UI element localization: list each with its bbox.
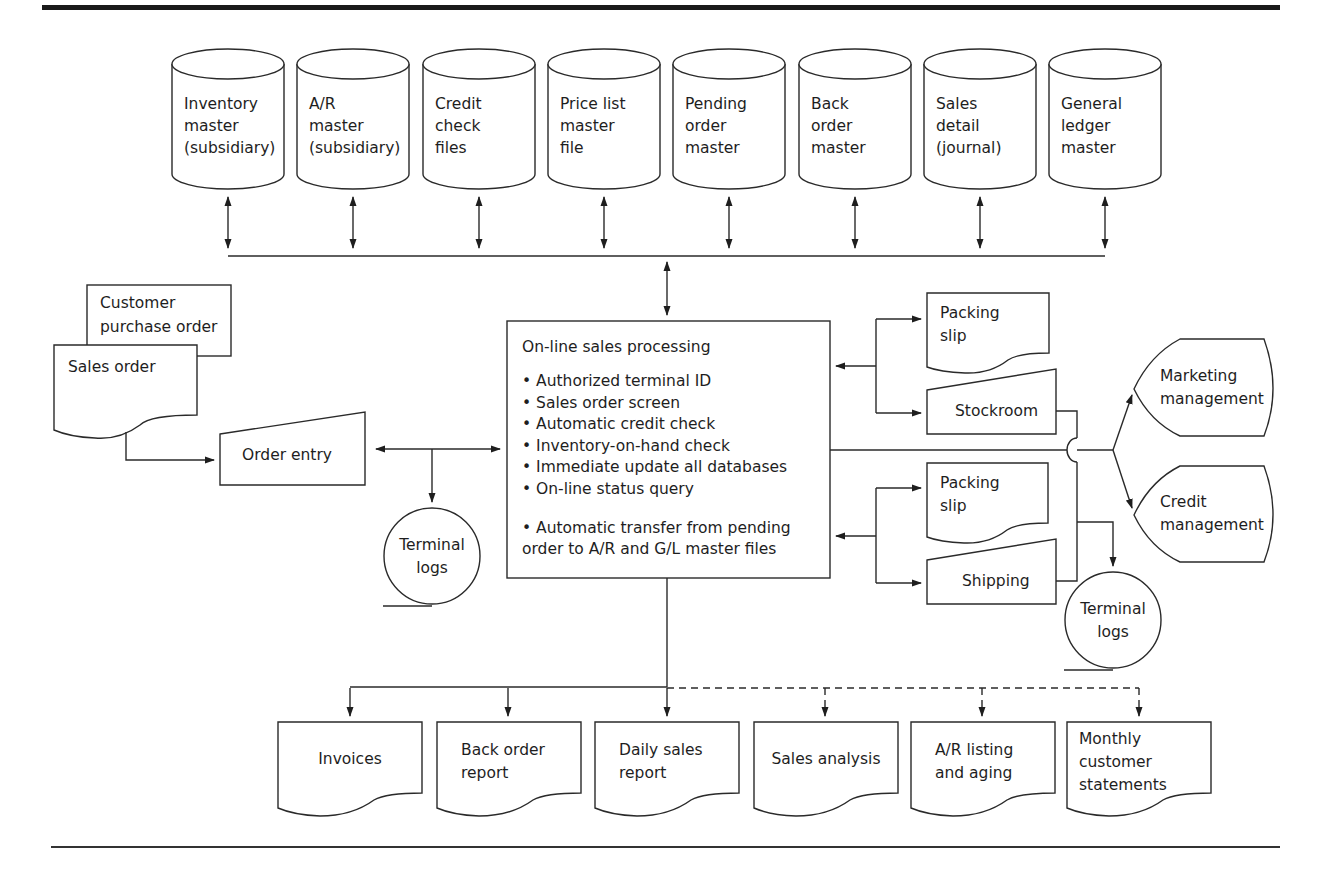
to-terminal-logs-right-arrow xyxy=(1077,522,1113,566)
process-bullet-item: • Automatic credit check xyxy=(522,415,715,433)
database-label-line: (journal) xyxy=(936,139,1001,157)
database-label-line: Pending xyxy=(685,95,747,113)
report-label-line: Sales analysis xyxy=(772,750,881,768)
marketing-line-1: Marketing xyxy=(1160,367,1237,385)
process-bullet-item: • On-line status query xyxy=(522,480,694,498)
report-label-line: A/R listing xyxy=(935,741,1013,759)
top-rule xyxy=(42,5,1280,10)
stockroom-manual-input: Stockroom xyxy=(927,369,1056,434)
shipping-label: Shipping xyxy=(962,572,1030,590)
bottom-rule xyxy=(51,846,1280,848)
database-label-line: Price list xyxy=(560,95,626,113)
database-label-line: master xyxy=(560,117,615,135)
marketing-management-display: Marketing management xyxy=(1134,339,1273,436)
report-document: A/R listingand aging xyxy=(911,722,1055,816)
report-row: InvoicesBack orderreportDaily salesrepor… xyxy=(278,688,1211,816)
packing-slip-1-document: Packing slip xyxy=(927,293,1049,373)
line-hop xyxy=(1067,438,1077,462)
database-cylinder: Price listmasterfile xyxy=(548,49,660,189)
database-cylinder: Inventorymaster(subsidiary) xyxy=(172,49,284,189)
process-title: On-line sales processing xyxy=(522,338,710,356)
process-bullet-item: • Inventory-on-hand check xyxy=(522,437,730,455)
packing-slip-2-line-1: Packing xyxy=(940,474,1000,492)
order-entry-label: Order entry xyxy=(242,446,332,464)
report-label-line: and aging xyxy=(935,764,1012,782)
database-cylinder: Salesdetail(journal) xyxy=(924,49,1036,189)
database-label-line: order xyxy=(685,117,727,135)
terminal-logs-tape-right: Terminal logs xyxy=(1064,572,1161,670)
terminal-logs-right-line-2: logs xyxy=(1097,623,1129,641)
database-label-line: master xyxy=(1061,139,1116,157)
report-document: Monthlycustomerstatements xyxy=(1067,722,1211,816)
database-cylinder: Backordermaster xyxy=(799,49,911,189)
database-label-line: Back xyxy=(811,95,849,113)
process-bullet-item-extra: • Automatic transfer from pending xyxy=(522,519,791,537)
report-label-line: Back order xyxy=(461,741,546,759)
marketing-line-2: management xyxy=(1160,390,1264,408)
report-document: Back orderreport xyxy=(437,722,581,816)
credit-management-display: Credit management xyxy=(1134,466,1273,562)
database-label-line: detail xyxy=(936,117,980,135)
shipping-manual-input: Shipping xyxy=(927,539,1056,604)
report-label-line: customer xyxy=(1079,753,1153,771)
shipping-connector xyxy=(1056,462,1077,581)
database-label-line: master xyxy=(309,117,364,135)
process-bullet-item: • Immediate update all databases xyxy=(522,458,787,476)
terminal-logs-left-line-2: logs xyxy=(416,559,448,577)
sales-order-label: Sales order xyxy=(68,358,156,376)
database-cylinder: Creditcheckfiles xyxy=(423,49,535,189)
report-document: Daily salesreport xyxy=(595,722,739,816)
credit-line-1: Credit xyxy=(1160,493,1207,511)
database-label-line: file xyxy=(560,139,584,157)
database-cylinder: Pendingordermaster xyxy=(673,49,785,189)
to-credit-arrow xyxy=(1113,450,1132,508)
database-label-line: master xyxy=(184,117,239,135)
packing-slip-1-line-2: slip xyxy=(940,327,967,345)
order-entry-manual-input: Order entry xyxy=(220,412,365,485)
customer-po-line-2: purchase order xyxy=(100,318,218,336)
report-label-line: report xyxy=(461,764,508,782)
database-label-line: master xyxy=(811,139,866,157)
packing-slip-2-document: Packing slip xyxy=(927,463,1048,543)
packing-slip-1-line-1: Packing xyxy=(940,304,1000,322)
stockroom-connector xyxy=(1056,411,1077,438)
flowchart-canvas: Inventorymaster(subsidiary)A/Rmaster(sub… xyxy=(0,0,1321,874)
process-bullet-item: • Authorized terminal ID xyxy=(522,372,711,390)
report-label-line: Monthly xyxy=(1079,730,1141,748)
database-cylinder: A/Rmaster(subsidiary) xyxy=(297,49,409,189)
database-label-line: files xyxy=(435,139,467,157)
database-row: Inventorymaster(subsidiary)A/Rmaster(sub… xyxy=(172,49,1161,248)
report-label-line: statements xyxy=(1079,776,1167,794)
database-label-line: check xyxy=(435,117,480,135)
terminal-logs-tape-left: Terminal logs xyxy=(383,508,480,606)
terminal-logs-left-line-1: Terminal xyxy=(398,536,465,554)
credit-line-2: management xyxy=(1160,516,1264,534)
database-label-line: (subsidiary) xyxy=(309,139,400,157)
report-document: Invoices xyxy=(278,722,422,816)
terminal-logs-right-line-1: Terminal xyxy=(1079,600,1146,618)
database-label-line: Inventory xyxy=(184,95,258,113)
sales-order-to-entry-arrow xyxy=(126,432,214,460)
to-marketing-arrow xyxy=(1113,395,1132,450)
report-label-line: report xyxy=(619,764,666,782)
stockroom-label: Stockroom xyxy=(955,402,1038,420)
packing-slip-2-line-2: slip xyxy=(940,497,967,515)
report-label-line: Invoices xyxy=(318,750,382,768)
process-bullet-item: • Sales order screen xyxy=(522,394,680,412)
database-label-line: master xyxy=(685,139,740,157)
sales-order-document: Sales order xyxy=(54,345,197,438)
database-label-line: ledger xyxy=(1061,117,1111,135)
database-label-line: order xyxy=(811,117,853,135)
database-cylinder: Generalledgermaster xyxy=(1049,49,1161,189)
online-sales-processing-box: On-line sales processing • Authorized te… xyxy=(507,321,830,578)
database-label-line: (subsidiary) xyxy=(184,139,275,157)
database-label-line: General xyxy=(1061,95,1122,113)
database-label-line: A/R xyxy=(309,95,336,113)
customer-po-line-1: Customer xyxy=(100,294,176,312)
report-label-line: Daily sales xyxy=(619,741,703,759)
report-document: Sales analysis xyxy=(754,722,898,816)
database-label-line: Sales xyxy=(936,95,977,113)
process-bullet-item-extra: order to A/R and G/L master files xyxy=(522,540,776,558)
database-label-line: Credit xyxy=(435,95,482,113)
